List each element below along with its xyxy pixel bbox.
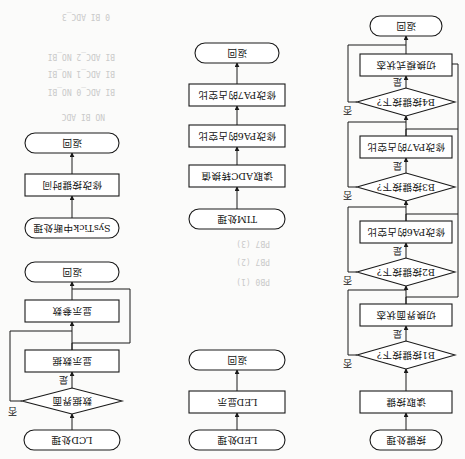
key-flow: 按键处理 读取按键 B1按键按下? 是 否 切换界面状态 B2按键按下? 是 否… xyxy=(343,16,459,450)
svg-text:PB0 (1): PB0 (1) xyxy=(236,277,270,286)
svg-text:读取ADC转换值: 读取ADC转换值 xyxy=(201,171,273,182)
svg-text:显示数据: 显示数据 xyxy=(52,356,92,367)
svg-text:BI ADC_2 NO_BI: BI ADC_2 NO_BI xyxy=(47,52,115,61)
svg-text:BI ADC_1 NO_BI: BI ADC_1 NO_BI xyxy=(47,69,115,78)
svg-text:修改PA7的占空比: 修改PA7的占空比 xyxy=(198,90,276,101)
tim-flow: TIM处理 读取ADC转换值 修改PA6的占空比 修改PA7的占空比 返回 xyxy=(189,43,285,229)
svg-text:切换模式状态: 切换模式状态 xyxy=(376,60,436,71)
svg-text:LCD处理: LCD处理 xyxy=(51,435,92,446)
svg-text:修改按键时间: 修改按键时间 xyxy=(42,180,102,191)
svg-text:是: 是 xyxy=(393,77,402,87)
svg-text:读取按键: 读取按键 xyxy=(386,397,426,408)
svg-text:否: 否 xyxy=(343,358,352,368)
lcd-flow: LCD处理 数据界面 是 否 显示数据 显示参数 返回 xyxy=(8,262,131,450)
svg-text:B3按键按下?: B3按键按下? xyxy=(377,182,435,193)
svg-text:NO BI ADC: NO BI ADC xyxy=(61,112,105,121)
led-flow: LED处理 LED显示 返回 xyxy=(189,350,285,450)
svg-text:返回: 返回 xyxy=(227,48,247,59)
svg-text:数据界面: 数据界面 xyxy=(52,396,92,407)
svg-text:修改PA7的占空比: 修改PA7的占空比 xyxy=(367,142,445,153)
svg-text:修改PA6的占空比: 修改PA6的占空比 xyxy=(198,131,276,142)
svg-text:返回: 返回 xyxy=(227,355,247,366)
flowchart-figure: 0 BI ADC_3 BI ADC_2 NO_BI BI ADC_1 NO_BI… xyxy=(0,0,465,459)
svg-text:否: 否 xyxy=(343,105,352,115)
svg-text:LED显示: LED显示 xyxy=(217,397,258,408)
svg-text:是: 是 xyxy=(393,161,402,171)
svg-text:BI ADC_0 NO_BI: BI ADC_0 NO_BI xyxy=(47,87,115,96)
svg-text:返回: 返回 xyxy=(62,138,82,149)
svg-text:切换界面状态: 切换界面状态 xyxy=(376,310,436,321)
svg-text:否: 否 xyxy=(343,275,352,285)
svg-text:显示参数: 显示参数 xyxy=(52,306,92,317)
svg-text:0 BI ADC_3: 0 BI ADC_3 xyxy=(62,12,110,21)
svg-text:否: 否 xyxy=(8,406,17,416)
svg-text:B2按键按下?: B2按键按下? xyxy=(377,267,435,278)
svg-text:是: 是 xyxy=(59,375,68,385)
svg-text:B4按键按下?: B4按键按下? xyxy=(377,97,435,108)
svg-text:否: 否 xyxy=(343,190,352,200)
svg-text:SysTick中断处理: SysTick中断处理 xyxy=(33,223,110,234)
systick-flow: SysTick中断处理 修改按键时间 返回 xyxy=(25,133,119,238)
svg-text:LED处理: LED处理 xyxy=(217,435,258,446)
svg-text:TIM处理: TIM处理 xyxy=(217,214,257,225)
svg-text:B1按键按下?: B1按键按下? xyxy=(377,350,435,361)
svg-text:返回: 返回 xyxy=(62,267,82,278)
svg-text:PB7 (2): PB7 (2) xyxy=(236,257,270,266)
key-start-label: 按键处理 xyxy=(386,435,426,446)
svg-text:是: 是 xyxy=(393,329,402,339)
svg-text:修改PA6的占空比: 修改PA6的占空比 xyxy=(367,227,445,238)
svg-text:是: 是 xyxy=(393,246,402,256)
svg-text:PB7 (3): PB7 (3) xyxy=(236,239,270,248)
svg-text:返回: 返回 xyxy=(396,21,416,32)
